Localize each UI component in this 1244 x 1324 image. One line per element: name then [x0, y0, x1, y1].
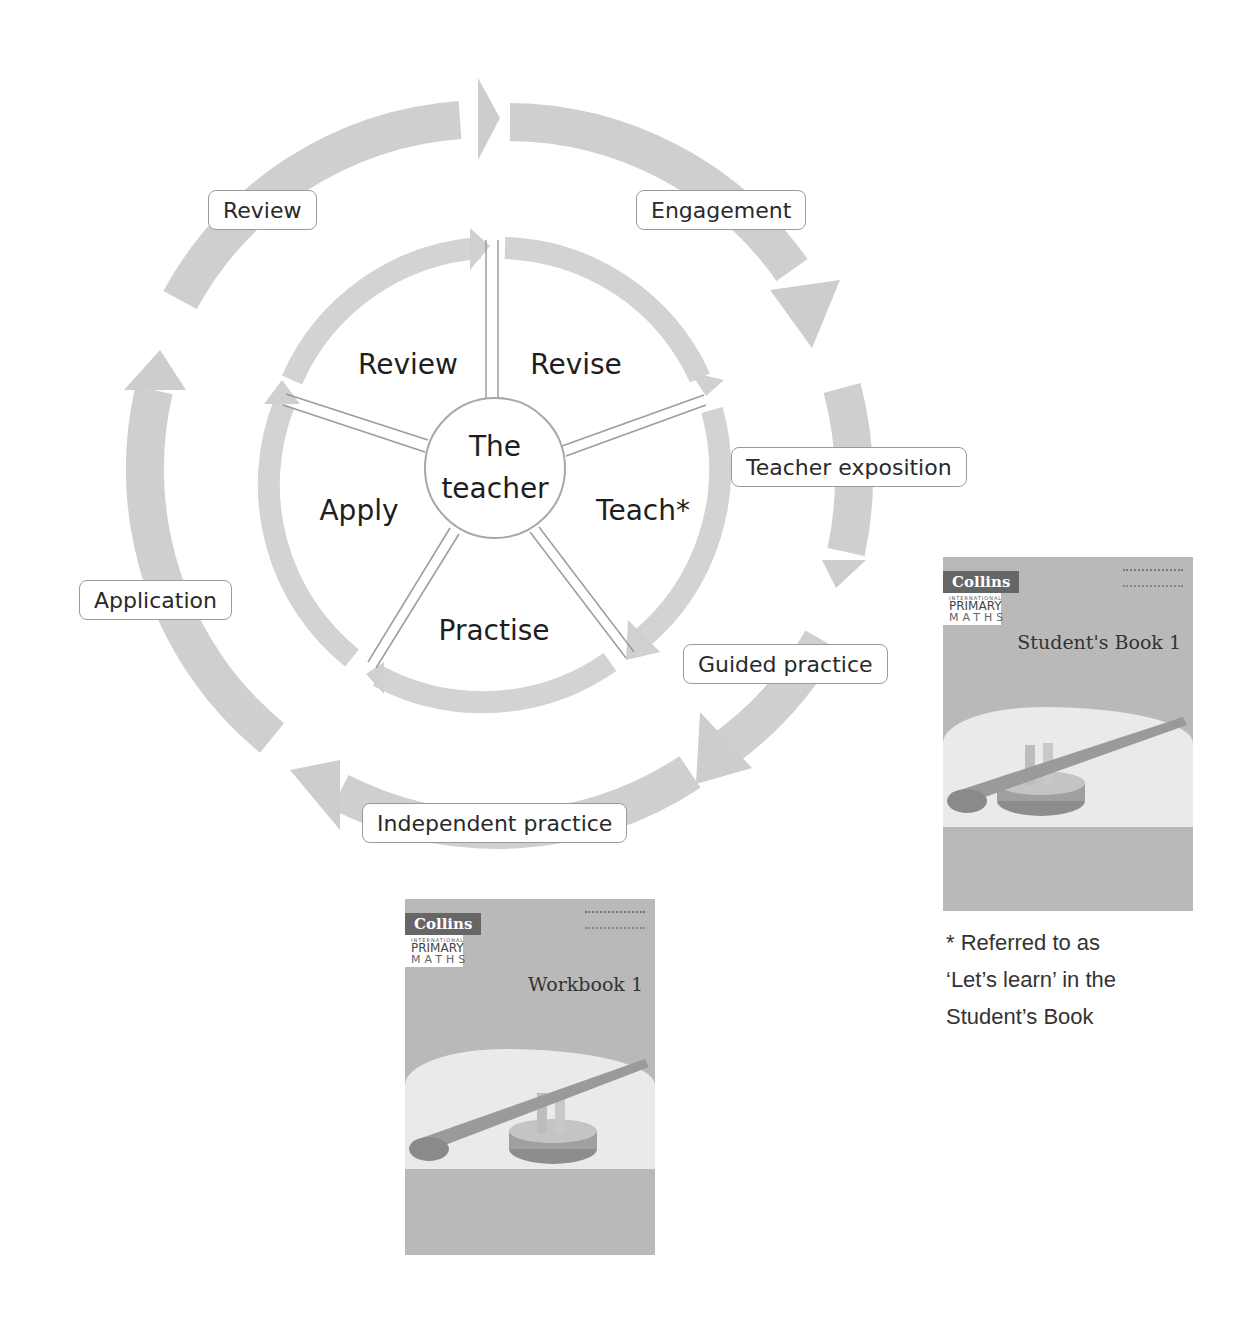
label-teacher-exposition: Teacher exposition	[731, 447, 967, 487]
footnote-line-2: ‘Let’s learn’ in the	[946, 961, 1206, 998]
label-independent-practice: Independent practice	[362, 803, 627, 843]
label-review: Review	[208, 190, 317, 230]
seesaw-illustration	[405, 899, 655, 1255]
segment-revise: Revise	[530, 348, 622, 381]
teacher-hub: The teacher	[424, 397, 566, 539]
footnote-line-3: Student’s Book	[946, 998, 1206, 1035]
workbook-cover: Collins INTERNATIONAL PRIMARY MATHS Work…	[405, 899, 655, 1255]
segment-apply: Apply	[319, 494, 398, 527]
hub-line-2: teacher	[441, 468, 548, 510]
footnote: * Referred to as ‘Let’s learn’ in the St…	[946, 924, 1206, 1035]
hub-line-1: The	[469, 426, 521, 468]
students-book-cover: Collins INTERNATIONAL PRIMARY MATHS Stud…	[943, 557, 1193, 911]
footnote-line-1: * Referred to as	[946, 924, 1206, 961]
segment-teach: Teach*	[596, 494, 690, 527]
segment-review: Review	[358, 348, 458, 381]
label-guided-practice: Guided practice	[683, 644, 888, 684]
label-engagement: Engagement	[636, 190, 806, 230]
seesaw-illustration	[943, 557, 1193, 911]
label-application: Application	[79, 580, 232, 620]
segment-practise: Practise	[438, 614, 549, 647]
